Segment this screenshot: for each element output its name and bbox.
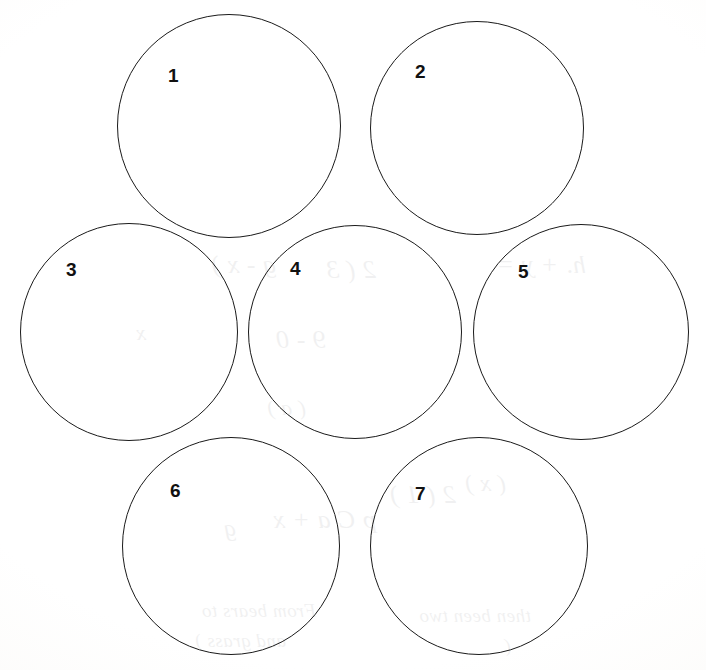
- circle-6[interactable]: [122, 437, 340, 655]
- circle-label-4: 4: [290, 259, 301, 278]
- circle-label-5: 5: [518, 262, 529, 281]
- circle-5[interactable]: [473, 224, 689, 440]
- circle-label-6: 6: [170, 481, 181, 500]
- worksheet-page: h. + y =2 ( 3g - x )9 - 0x( a )( x )2 ( …: [0, 0, 706, 670]
- circle-3[interactable]: [20, 223, 238, 441]
- circle-label-1: 1: [168, 66, 179, 85]
- circle-7[interactable]: [370, 437, 588, 655]
- circle-label-3: 3: [66, 260, 77, 279]
- circle-label-2: 2: [415, 62, 426, 81]
- circle-4[interactable]: [248, 225, 462, 439]
- circle-1[interactable]: [117, 14, 341, 238]
- circle-label-7: 7: [415, 484, 426, 503]
- circle-2[interactable]: [370, 21, 584, 235]
